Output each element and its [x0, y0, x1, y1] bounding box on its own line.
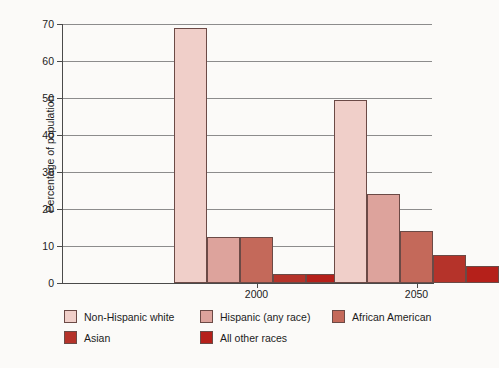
- y-axis-label: Percentage of population: [44, 95, 56, 212]
- y-tick-label: 70: [14, 18, 54, 30]
- y-tick-label: 20: [14, 203, 54, 215]
- legend: Non-Hispanic whiteHispanic (any race)Afr…: [64, 306, 454, 348]
- legend-label: Asian: [84, 332, 110, 344]
- legend-label: Hispanic (any race): [220, 311, 310, 323]
- legend-swatch: [332, 310, 345, 323]
- legend-label: All other races: [220, 332, 287, 344]
- x-axis-line: [62, 283, 434, 284]
- bar-group-2050: [334, 24, 499, 283]
- legend-swatch: [200, 310, 213, 323]
- x-tick-label: 2050: [405, 288, 428, 300]
- legend-item[interactable]: Hispanic (any race): [200, 310, 332, 323]
- bar: [400, 231, 433, 283]
- x-tick-label: 2000: [245, 288, 268, 300]
- bar: [174, 28, 207, 283]
- y-tick-label: 10: [14, 240, 54, 252]
- plot-area: Percentage of population: [62, 24, 432, 283]
- y-tick-label: 0: [14, 277, 54, 289]
- bar: [207, 237, 240, 283]
- legend-swatch: [64, 331, 77, 344]
- legend-row: Non-Hispanic whiteHispanic (any race)Afr…: [64, 306, 454, 327]
- bar-group-2000: [174, 24, 339, 283]
- bar: [466, 266, 499, 283]
- legend-label: African American: [352, 311, 431, 323]
- bar: [367, 194, 400, 283]
- legend-item[interactable]: Asian: [64, 331, 200, 344]
- y-tick-label: 40: [14, 129, 54, 141]
- y-tick-label: 50: [14, 92, 54, 104]
- legend-label: Non-Hispanic white: [84, 311, 174, 323]
- legend-swatch: [200, 331, 213, 344]
- y-tick-label: 60: [14, 55, 54, 67]
- legend-row: AsianAll other races: [64, 327, 454, 348]
- bar: [334, 100, 367, 283]
- legend-item[interactable]: All other races: [200, 331, 332, 344]
- bar: [273, 274, 306, 283]
- bar: [240, 237, 273, 283]
- y-axis-line: [62, 24, 63, 284]
- legend-item[interactable]: Non-Hispanic white: [64, 310, 200, 323]
- legend-swatch: [64, 310, 77, 323]
- legend-item[interactable]: African American: [332, 310, 431, 323]
- y-tick-label: 30: [14, 166, 54, 178]
- bar: [433, 255, 466, 283]
